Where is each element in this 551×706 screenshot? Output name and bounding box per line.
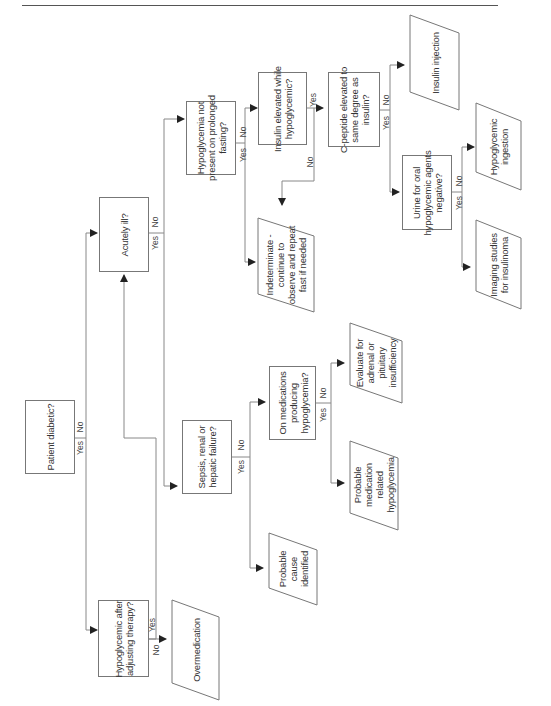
hypo-not-present-node: Hypoglycemia not present on prolonged fa… (186, 101, 236, 175)
acutely-ill-no-label: No (150, 217, 160, 228)
probable-cause-text: Probable cause identified (269, 541, 317, 597)
hypo-not-present-no-label: No (238, 127, 248, 138)
hypo-after-adjusting-node: Hypoglycemic after adjusting therapy? (98, 600, 149, 677)
acutely-ill-node: Acutely ill? (99, 197, 149, 272)
sepsis-yes-label: Yes (236, 460, 246, 474)
hypo-adjust-yes-label: Yes (147, 618, 157, 632)
patient-diabetic-no-label: No (75, 422, 85, 433)
on-medications-node: On medications producing hypoglycemia? (269, 366, 316, 440)
patient-diabetic-node: Patient diabetic? (25, 400, 75, 474)
indeterminate-text: Indeterminate - continue to observe and … (258, 227, 314, 303)
urine-oral-node: Urine for oral hypoglycemic agents negat… (402, 155, 452, 230)
sepsis-node: Sepsis, renal or hepatic failure? (182, 420, 232, 494)
patient-diabetic-yes-label: Yes (75, 441, 85, 455)
sepsis-no-label: No (236, 440, 246, 451)
hypoglycemic-ingestion-text: Hypoglycemic ingestion (476, 112, 521, 181)
c-peptide-node: C-peptide elevated to same degree as ins… (328, 72, 380, 147)
urine-yes-label: Yes (454, 196, 464, 210)
c-peptide-no-label: No (381, 95, 391, 106)
insulin-injection-text: Insulin injection (410, 24, 459, 101)
insulin-elevated-node: Insulin elevated while hypoglycemic? (258, 72, 307, 145)
probable-medication-text: Probable medication related hypoglycemia (350, 449, 398, 521)
acutely-ill-yes-label: Yes (150, 236, 160, 250)
hypo-adjust-no-label: No (151, 645, 161, 656)
on-medications-no-label: No (318, 388, 328, 399)
hypo-not-present-yes-label: Yes (238, 148, 248, 162)
insulin-elevated-yes-label: Yes (308, 93, 318, 107)
on-medications-yes-label: Yes (318, 408, 328, 422)
evaluate-adrenal-text: Evaluate for adrenal or pituitary insuff… (350, 332, 402, 394)
c-peptide-yes-label: Yes (381, 116, 391, 130)
urine-no-label: No (454, 176, 464, 187)
insulin-elevated-no-label: No (305, 157, 315, 168)
overmedication-text: Overmedication (172, 608, 219, 692)
imaging-studies-text: Imaging studies for insulinoma (476, 229, 521, 300)
